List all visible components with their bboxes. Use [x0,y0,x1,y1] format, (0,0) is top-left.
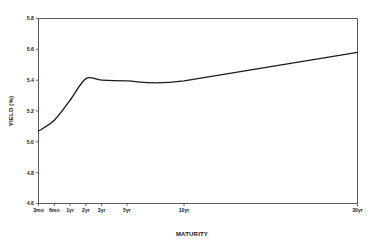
x-tick-label: 5yr [123,207,131,213]
x-tick-label: 3mo [33,207,44,213]
x-tick-label: 10yr [179,207,190,213]
y-tick-label: 5.2 [27,108,34,114]
y-tick-label: 5.0 [27,139,34,145]
y-tick-label: 4.6 [27,200,34,206]
yield-curve-chart: 4.6 4.8 5.0 5.2 5.4 5.6 5.8 3mo 6mo 1yr [0,0,385,245]
x-tick-label: 6mo [49,207,60,213]
x-tick-label: 3yr [98,207,106,213]
x-tick-label: 1yr [66,207,74,213]
x-axis-title: MATURITY [176,231,208,237]
y-tick-label: 4.8 [27,170,34,176]
y-axis-title: YIELD (%) [8,96,14,126]
y-tick-label: 5.4 [27,77,34,83]
x-tick-label: 2yr [82,207,90,213]
chart-canvas: 4.6 4.8 5.0 5.2 5.4 5.6 5.8 3mo 6mo 1yr [0,0,385,245]
y-tick-label: 5.8 [27,15,34,21]
y-tick-label: 5.6 [27,46,34,52]
x-tick-label: 30yr [352,207,363,213]
